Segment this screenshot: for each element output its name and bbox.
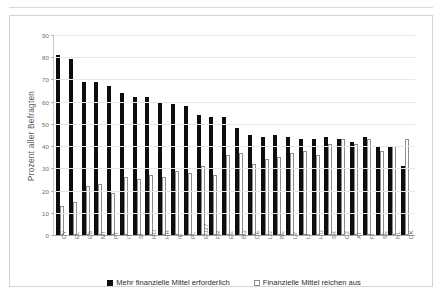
x-label-cz: CZ	[337, 238, 350, 266]
bar-series-container	[54, 35, 415, 235]
x-label-se: SE	[376, 238, 389, 266]
bar-fr-series2	[213, 175, 217, 235]
x-label-text: SI	[138, 233, 144, 239]
x-label-pl: PL	[183, 238, 196, 266]
bar-si-series2	[137, 179, 141, 235]
x-label-fr: FR	[209, 238, 222, 266]
plot-area-wrapper: 0102030405060708090	[53, 35, 415, 236]
x-label-lt: LT	[299, 238, 312, 266]
bar-it-series2	[124, 177, 128, 235]
bar-el-series2	[73, 202, 77, 235]
x-label-ie: IE	[170, 238, 183, 266]
legend-item-1[interactable]: Mehr finanzielle Mittel erforderlich	[107, 278, 230, 287]
x-label-text: LU	[267, 231, 273, 239]
y-tick-label-0: 0	[45, 232, 49, 239]
plot-area: 0102030405060708090	[53, 35, 415, 236]
y-tick-label-10: 10	[42, 209, 49, 216]
x-label-text: HR	[164, 230, 170, 239]
bar-lt-series2	[303, 151, 307, 235]
x-label-be: BE	[273, 238, 286, 266]
x-label-text: RO	[151, 230, 157, 239]
x-label-text: LT	[305, 232, 311, 239]
bar-mt-series2	[98, 184, 102, 235]
bar-group-es	[82, 35, 95, 235]
x-label-cy: CY	[55, 238, 68, 266]
bar-group-fr	[209, 35, 222, 235]
x-label-sk: SK	[324, 238, 337, 266]
gridline-20	[54, 191, 415, 192]
gridline-90	[54, 35, 415, 36]
x-label-ee: EE	[222, 238, 235, 266]
bar-group-si	[133, 35, 146, 235]
bar-group-ee	[222, 35, 235, 235]
bar-hr-series2	[162, 177, 166, 235]
chart-frame: Prozent aller Befragten 0102030405060708…	[9, 15, 433, 287]
x-label-el: EL	[68, 238, 81, 266]
y-tick-label-40: 40	[42, 143, 49, 150]
bar-group-de	[248, 35, 261, 235]
bar-group-cy	[56, 35, 69, 235]
x-label-text: DK	[408, 230, 414, 239]
x-label-text: CY	[61, 230, 67, 239]
bar-group-ro	[145, 35, 158, 235]
bar-group-at	[350, 35, 363, 235]
bar-group-ie	[171, 35, 184, 235]
bar-group-lt	[299, 35, 312, 235]
bar-lu-series2	[265, 159, 269, 235]
x-label-hr: HR	[158, 238, 171, 266]
x-label-text: IE	[177, 233, 183, 239]
x-label-text: MT	[100, 230, 106, 239]
bar-group-el	[69, 35, 82, 235]
bar-bg-series2	[239, 153, 243, 235]
y-tick-mark-40	[51, 146, 54, 147]
bar-at-series2	[354, 144, 358, 235]
y-tick-label-50: 50	[42, 120, 49, 127]
legend-swatch-light	[254, 280, 260, 286]
chart-page: Prozent aller Befragten 0102030405060708…	[0, 0, 442, 297]
x-label-pt: PT	[106, 238, 119, 266]
y-tick-mark-60	[51, 102, 54, 103]
x-label-eu27: EU27	[196, 238, 209, 266]
bar-dk-series2	[405, 139, 409, 235]
bar-ee-series2	[226, 155, 230, 235]
bar-lv-series2	[290, 153, 294, 235]
bar-group-se	[376, 35, 389, 235]
top-divider	[9, 7, 433, 8]
bar-group-lu	[261, 35, 274, 235]
legend-item-2[interactable]: Finanzielle Mittel reichen aus	[254, 278, 361, 287]
x-label-it: IT	[119, 238, 132, 266]
bar-pl-series2	[188, 173, 192, 235]
x-label-nl: NL	[389, 238, 402, 266]
bar-group-dk	[401, 35, 414, 235]
x-label-text: SE	[382, 231, 388, 239]
y-tick-label-60: 60	[42, 98, 49, 105]
x-label-text: AT	[356, 232, 362, 239]
y-tick-label-70: 70	[42, 76, 49, 83]
x-label-text: EE	[228, 231, 234, 239]
x-label-text: ES	[87, 231, 93, 239]
legend-swatch-dark	[107, 280, 113, 286]
bar-group-eu27	[197, 35, 210, 235]
x-label-text: IT	[126, 233, 132, 239]
y-tick-mark-30	[51, 168, 54, 169]
y-axis-title: Prozent aller Befragten	[25, 35, 37, 236]
x-label-bg: BG	[235, 238, 248, 266]
bar-group-nl	[388, 35, 401, 235]
x-label-text: PL	[190, 231, 196, 239]
chart-legend: Mehr finanzielle Mittel erforderlichFina…	[53, 278, 415, 287]
y-tick-label-30: 30	[42, 165, 49, 172]
y-tick-mark-90	[51, 35, 54, 36]
bar-group-be	[273, 35, 286, 235]
x-label-text: SK	[331, 231, 337, 239]
x-label-hu: HU	[312, 238, 325, 266]
x-label-lu: LU	[260, 238, 273, 266]
x-label-mt: MT	[93, 238, 106, 266]
x-label-text: DE	[254, 230, 260, 239]
x-label-text: EU27	[203, 224, 209, 239]
bar-group-pt	[107, 35, 120, 235]
legend-label: Finanzielle Mittel reichen aus	[263, 278, 361, 287]
bar-fi-series2	[367, 139, 371, 235]
x-axis-labels: CYELESMTPTITSIROHRIEPLEU27FREEBGDELUBELV…	[53, 238, 415, 266]
y-tick-label-20: 20	[42, 187, 49, 194]
bar-group-lv	[286, 35, 299, 235]
